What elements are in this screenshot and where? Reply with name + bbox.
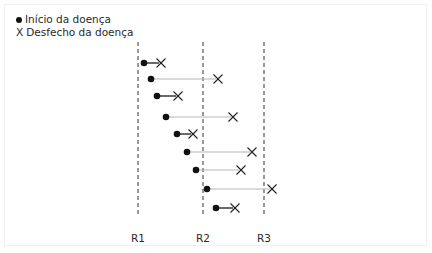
case-row: [184, 148, 257, 157]
region-label-r2: R2: [196, 232, 210, 244]
onset-dot-icon: [204, 186, 211, 193]
onset-dot-icon: [141, 60, 148, 67]
case-row: [154, 92, 183, 101]
case-row: [148, 75, 223, 84]
onset-dot-icon: [193, 167, 200, 174]
onset-dot-icon: [148, 76, 155, 83]
case-row: [193, 166, 246, 175]
onset-dot-icon: [213, 205, 220, 212]
onset-dot-icon: [154, 93, 161, 100]
onset-dot-icon: [174, 131, 181, 138]
onset-dot-icon: [184, 149, 191, 156]
disease-timeline-diagram: [0, 0, 432, 253]
case-row: [141, 59, 166, 68]
case-row: [204, 185, 277, 194]
region-label-r3: R3: [257, 232, 271, 244]
case-row: [174, 130, 198, 139]
region-label-r1: R1: [131, 232, 145, 244]
onset-dot-icon: [163, 114, 170, 121]
case-row: [163, 113, 238, 122]
case-segments: [141, 59, 277, 213]
case-row: [213, 204, 240, 213]
